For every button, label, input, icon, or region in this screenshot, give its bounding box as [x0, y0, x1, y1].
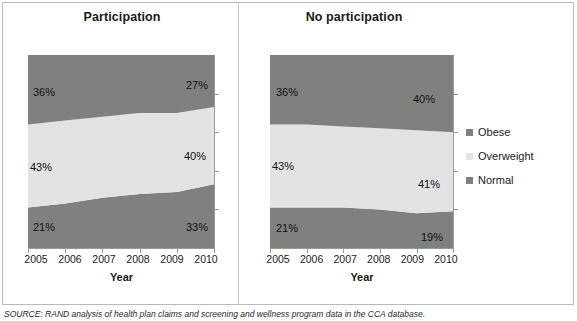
x-axis-label: 2006 — [55, 253, 85, 267]
legend-swatch-obese-icon — [466, 129, 473, 136]
x-axis-line-no-participation — [270, 248, 454, 249]
data-label-normal-start-left: 21% — [33, 221, 55, 233]
legend-item-overweight[interactable]: Overweight — [466, 144, 566, 168]
data-label-overweight-start-right: 43% — [272, 160, 294, 172]
panel-title-no-participation: No participation — [244, 10, 464, 24]
data-label-obese-start-left: 36% — [33, 86, 55, 98]
legend-label-overweight: Overweight — [478, 150, 534, 162]
data-label-normal-end-left: 33% — [186, 221, 208, 233]
x-axis-label: 2005 — [21, 253, 51, 267]
data-label-obese-start-right: 36% — [276, 86, 298, 98]
y-axis-line-participation — [214, 55, 215, 249]
x-axis-label: 2005 — [263, 253, 293, 267]
panel-title-participation: Participation — [10, 10, 234, 24]
source-note: SOURCE: RAND analysis of health plan cla… — [4, 309, 569, 319]
y-axis-line-no-participation — [453, 55, 454, 249]
legend-label-obese: Obese — [478, 126, 510, 138]
x-axis-label: 2006 — [297, 253, 327, 267]
legend-item-normal[interactable]: Normal — [466, 168, 566, 192]
x-axis-label: 2009 — [157, 253, 187, 267]
data-label-overweight-end-right: 41% — [418, 178, 440, 190]
x-axis-label: 2008 — [364, 253, 394, 267]
data-label-obese-end-left: 27% — [186, 79, 208, 91]
figure-stacked-area-charts: Participation 2005 2006 2007 2008 2009 2… — [0, 0, 577, 321]
y-axis-tick — [215, 209, 219, 210]
data-label-overweight-start-left: 43% — [30, 161, 52, 173]
y-axis-tick — [215, 132, 219, 133]
y-axis-tick — [454, 209, 458, 210]
data-label-obese-end-right: 40% — [413, 93, 435, 105]
y-axis-tick — [215, 94, 219, 95]
data-label-normal-start-right: 21% — [276, 222, 298, 234]
panel-divider — [238, 3, 239, 304]
legend-item-obese[interactable]: Obese — [466, 120, 566, 144]
legend-swatch-normal-icon — [466, 177, 473, 184]
y-axis-tick — [215, 171, 219, 172]
chart-legend: Obese Overweight Normal — [466, 120, 566, 192]
area-band-overweight — [270, 125, 453, 214]
x-axis-line-participation — [28, 248, 215, 249]
area-chart-no-participation — [270, 55, 453, 248]
x-axis-label: 2007 — [330, 253, 360, 267]
legend-label-normal: Normal — [478, 174, 513, 186]
x-axis-title-no-participation: Year — [270, 271, 454, 283]
x-axis-label: 2010 — [431, 253, 461, 267]
y-axis-tick — [454, 132, 458, 133]
x-axis-labels-participation: 2005 2006 2007 2008 2009 2010 — [21, 253, 221, 267]
x-axis-label: 2009 — [397, 253, 427, 267]
plot-area-no-participation — [270, 55, 453, 248]
x-axis-label: 2008 — [123, 253, 153, 267]
x-axis-label: 2010 — [191, 253, 221, 267]
data-label-overweight-end-left: 40% — [184, 150, 206, 162]
x-axis-label: 2007 — [89, 253, 119, 267]
y-axis-tick — [454, 171, 458, 172]
y-axis-tick — [454, 94, 458, 95]
legend-swatch-overweight-icon — [466, 153, 473, 160]
data-label-normal-end-right: 19% — [421, 231, 443, 243]
x-axis-labels-no-participation: 2005 2006 2007 2008 2009 2010 — [263, 253, 461, 267]
x-axis-title-participation: Year — [28, 271, 215, 283]
